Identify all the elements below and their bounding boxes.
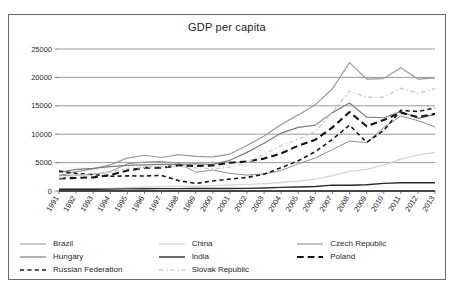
svg-text:2007: 2007 <box>318 194 334 213</box>
svg-text:2005: 2005 <box>283 194 299 213</box>
gridlines <box>55 49 435 191</box>
legend-label-slovak-republic: Slovak Republic <box>192 265 249 275</box>
legend-item-czech-republic[interactable]: Czech Republic <box>296 237 435 250</box>
svg-text:2003: 2003 <box>249 194 265 213</box>
svg-text:2011: 2011 <box>386 194 402 212</box>
chart-legend: Brazil China Czech Republic Hungary Indi… <box>19 237 435 277</box>
svg-text:1991: 1991 <box>44 194 60 213</box>
legend-swatch-russian-federation <box>19 265 47 275</box>
legend-label-china: China <box>192 239 213 249</box>
svg-text:1998: 1998 <box>164 194 180 213</box>
svg-text:10000: 10000 <box>31 130 52 139</box>
legend-item-india[interactable]: India <box>158 250 297 263</box>
svg-text:0: 0 <box>48 187 52 196</box>
legend-swatch-czech-republic <box>296 239 324 249</box>
legend-label-india: India <box>192 252 209 262</box>
svg-text:25000: 25000 <box>31 45 52 54</box>
svg-text:2000: 2000 <box>198 194 214 213</box>
legend-item-hungary[interactable]: Hungary <box>19 250 158 263</box>
legend-item-slovak-republic[interactable]: Slovak Republic <box>158 263 297 276</box>
legend-swatch-slovak-republic <box>158 265 186 275</box>
svg-text:2010: 2010 <box>369 194 385 213</box>
legend-spacer <box>296 263 435 276</box>
y-axis-tick-labels: 0500010000150002000025000 <box>31 45 52 196</box>
svg-text:15000: 15000 <box>31 101 52 110</box>
svg-text:1999: 1999 <box>181 194 197 213</box>
svg-text:2008: 2008 <box>335 194 351 213</box>
svg-text:1997: 1997 <box>147 194 163 213</box>
legend-label-brazil: Brazil <box>53 239 73 249</box>
legend-label-hungary: Hungary <box>53 252 83 262</box>
legend-swatch-india <box>158 252 186 262</box>
legend-row: Brazil China Czech Republic <box>19 237 435 250</box>
legend-swatch-poland <box>296 252 324 262</box>
legend-item-brazil[interactable]: Brazil <box>19 237 158 250</box>
svg-text:1993: 1993 <box>78 194 94 213</box>
chart-panel: GDP per capita 0500010000150002000025000… <box>8 14 446 280</box>
legend-label-russian-federation: Russian Federation <box>53 265 122 275</box>
svg-text:2013: 2013 <box>420 194 436 213</box>
legend-swatch-china <box>158 239 186 249</box>
svg-text:1995: 1995 <box>113 194 129 213</box>
svg-text:20000: 20000 <box>31 73 52 82</box>
svg-text:2012: 2012 <box>403 194 419 213</box>
svg-text:1996: 1996 <box>130 194 146 213</box>
svg-text:2006: 2006 <box>301 194 317 213</box>
svg-text:2004: 2004 <box>266 194 282 213</box>
svg-text:2009: 2009 <box>352 194 368 213</box>
legend-label-poland: Poland <box>330 252 355 262</box>
legend-swatch-hungary <box>19 252 47 262</box>
svg-text:2001: 2001 <box>215 194 231 213</box>
svg-text:2002: 2002 <box>232 194 248 213</box>
svg-text:1994: 1994 <box>95 194 111 213</box>
legend-row: Hungary India Poland <box>19 250 435 263</box>
legend-swatch-brazil <box>19 239 47 249</box>
x-axis-tick-labels: 1991199219931994199519961997199819992000… <box>44 191 436 213</box>
svg-text:1992: 1992 <box>61 194 77 213</box>
svg-text:5000: 5000 <box>35 158 52 167</box>
legend-item-poland[interactable]: Poland <box>296 250 435 263</box>
legend-row: Russian Federation Slovak Republic <box>19 263 435 276</box>
legend-item-china[interactable]: China <box>158 237 297 250</box>
legend-item-russian-federation[interactable]: Russian Federation <box>19 263 158 276</box>
series-lines <box>59 63 435 190</box>
legend-label-czech-republic: Czech Republic <box>330 239 386 249</box>
